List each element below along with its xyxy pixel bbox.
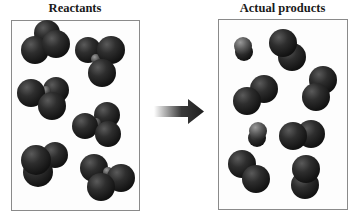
reactant-molecule-1 — [21, 20, 70, 64]
reactant-molecule-6 — [80, 154, 135, 201]
reactant-molecule-5 — [21, 142, 68, 187]
reactant-molecule-4 — [72, 102, 121, 147]
reactant-molecule-2 — [75, 36, 125, 87]
molecule-illustration — [0, 0, 356, 220]
product-molecule-4 — [302, 66, 337, 111]
product-molecule-1 — [234, 37, 253, 61]
product-molecule-8 — [291, 155, 320, 199]
reaction-arrow-icon — [154, 99, 204, 124]
product-molecule-3 — [233, 75, 278, 115]
product-molecule-5 — [248, 122, 267, 147]
product-molecule-6 — [279, 120, 325, 150]
product-molecule-2 — [269, 29, 306, 71]
product-molecule-7 — [228, 150, 270, 193]
reactant-molecule-3 — [17, 77, 69, 120]
